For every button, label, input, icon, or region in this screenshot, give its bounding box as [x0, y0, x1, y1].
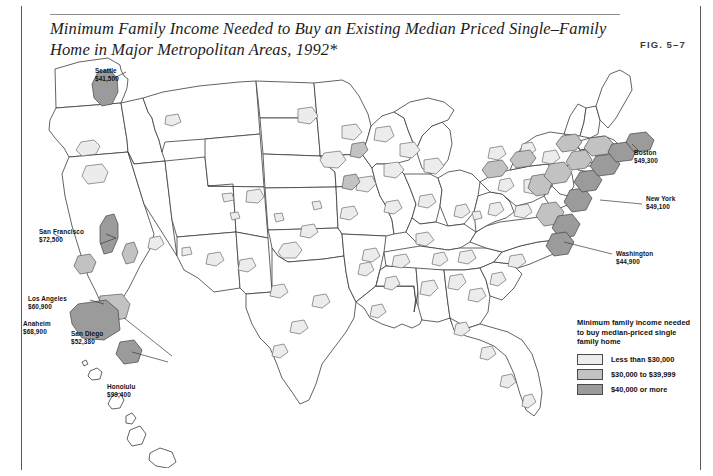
callout-boston: Boston $49,300 — [634, 149, 658, 164]
figure-page: Minimum Family Income Needed to Buy an E… — [0, 0, 713, 476]
page-rule-left — [21, 6, 22, 470]
callout-city-boston: Boston — [634, 149, 657, 156]
callout-city-honolulu: Honolulu — [107, 383, 135, 390]
callout-san-francisco: San Francisco $72,500 — [39, 228, 84, 243]
callout-san-diego: San Diego $52,380 — [71, 330, 103, 345]
legend-row-30000-to-39999: $30,000 to $39,999 — [577, 369, 699, 380]
callout-amount-honolulu: $99,400 — [107, 391, 135, 399]
figure-number: FIG. 5–7 — [640, 39, 686, 50]
callout-anaheim: Anaheim $68,900 — [23, 320, 51, 335]
page-rule-right — [700, 6, 701, 470]
legend-label-40000-or-more: $40,000 or more — [611, 385, 667, 394]
state-outlines — [49, 58, 632, 468]
callout-seattle: Seattle $41,500 — [95, 67, 119, 82]
callout-city-washington: Washington — [616, 250, 653, 257]
callout-amount-washington: $44,900 — [616, 258, 653, 266]
map-legend: Minimum family income needed to buy medi… — [577, 318, 699, 399]
us-choropleth-map: .st{fill:#ffffff;stroke:#3b3b3b;stroke-w… — [24, 56, 696, 468]
legend-label-less-than-30000: Less than $30,000 — [611, 355, 674, 364]
legend-swatch-medium-gray — [577, 369, 603, 380]
legend-label-30000-to-39999: $30,000 to $39,999 — [611, 370, 676, 379]
callout-los-angeles: Los Angeles $60,900 — [28, 295, 67, 310]
callout-amount-anaheim: $68,900 — [23, 328, 51, 336]
callout-amount-san-diego: $52,380 — [71, 338, 103, 346]
legend-row-less-than-30000: Less than $30,000 — [577, 354, 699, 365]
callout-city-los-angeles: Los Angeles — [28, 295, 67, 302]
callout-city-san-francisco: San Francisco — [39, 228, 84, 235]
legend-swatch-dark-gray — [577, 384, 603, 395]
callout-amount-san-francisco: $72,500 — [39, 236, 84, 244]
callout-new-york: New York $49,100 — [646, 195, 675, 210]
callout-city-anaheim: Anaheim — [23, 320, 51, 327]
figure-title: Minimum Family Income Needed to Buy an E… — [50, 18, 610, 60]
callout-amount-boston: $49,300 — [634, 157, 658, 165]
callout-city-new-york: New York — [646, 195, 675, 202]
legend-title: Minimum family income needed to buy medi… — [577, 318, 699, 347]
callout-amount-seattle: $41,500 — [95, 75, 119, 83]
legend-rows: Less than $30,000 $30,000 to $39,999 $40… — [577, 354, 699, 395]
legend-swatch-light-gray — [577, 354, 603, 365]
callout-washington: Washington $44,900 — [616, 250, 653, 265]
callout-honolulu: Honolulu $99,400 — [107, 383, 135, 398]
callout-amount-new-york: $49,100 — [646, 203, 675, 211]
legend-row-40000-or-more: $40,000 or more — [577, 384, 699, 395]
title-rule — [50, 14, 620, 15]
callout-amount-los-angeles: $60,900 — [28, 303, 67, 311]
callout-city-seattle: Seattle — [95, 67, 117, 74]
callout-city-san-diego: San Diego — [71, 330, 103, 337]
